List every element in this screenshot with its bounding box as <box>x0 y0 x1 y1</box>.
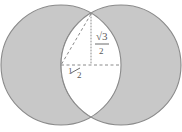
sqrt-three-numerator: √3 <box>96 30 108 42</box>
geometry-figure-container: √3 2 1 2 <box>0 0 182 132</box>
sqrt-three-denominator: 2 <box>99 46 104 56</box>
one-half-numerator: 1 <box>68 66 73 76</box>
overlapping-circles-diagram: √3 2 1 2 <box>0 0 182 132</box>
one-half-denominator: 2 <box>77 70 82 80</box>
